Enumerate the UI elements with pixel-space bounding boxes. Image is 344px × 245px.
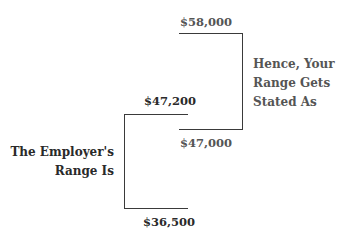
employee-range-high-value: $58,000 <box>180 15 232 29</box>
employer-range-bottom-line <box>124 208 188 209</box>
employer-range-vertical-line <box>124 114 125 209</box>
employee-range-label: Hence, Your Range Gets Stated As <box>253 55 335 112</box>
employer-range-high-value: $47,200 <box>144 94 196 108</box>
employee-range-vertical-line <box>242 33 243 130</box>
employee-range-low-value: $47,000 <box>180 136 232 150</box>
employee-range-top-line <box>179 33 243 34</box>
employer-range-label: The Employer's Range Is <box>10 143 114 181</box>
employer-range-top-line <box>124 114 188 115</box>
employee-range-bottom-line <box>179 129 243 130</box>
employer-range-low-value: $36,500 <box>143 215 195 229</box>
